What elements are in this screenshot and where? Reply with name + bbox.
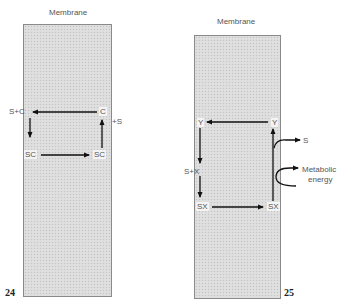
arrow-layer	[0, 0, 344, 302]
arrow-metabolic-energy	[276, 168, 298, 186]
arrow-release-s	[274, 140, 300, 148]
